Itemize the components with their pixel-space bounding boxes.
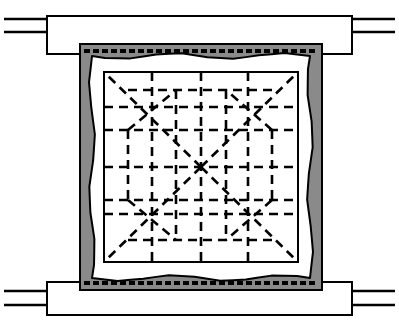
tick-row-bottom-tick bbox=[138, 281, 144, 285]
tick-row-top-tick bbox=[228, 49, 234, 53]
tick-row-top-tick bbox=[273, 49, 279, 53]
tick-row-bottom-tick bbox=[255, 281, 261, 285]
tick-row-bottom-tick bbox=[174, 281, 180, 285]
tick-row-bottom-tick bbox=[201, 281, 207, 285]
tick-row-bottom-tick bbox=[192, 281, 198, 285]
tick-row-top-tick bbox=[156, 49, 162, 53]
tick-row-top-tick bbox=[309, 49, 315, 53]
tick-row-top-tick bbox=[138, 49, 144, 53]
tick-row-top-tick bbox=[183, 49, 189, 53]
tick-row-bottom-tick bbox=[165, 281, 171, 285]
tick-row-bottom-tick bbox=[300, 281, 306, 285]
tick-row-bottom-tick bbox=[273, 281, 279, 285]
tick-row-bottom-tick bbox=[156, 281, 162, 285]
tick-row-top-tick bbox=[111, 49, 117, 53]
tick-row-top-tick bbox=[93, 49, 99, 53]
tick-row-top-tick bbox=[129, 49, 135, 53]
tick-row-bottom-tick bbox=[246, 281, 252, 285]
tick-row-top-tick bbox=[246, 49, 252, 53]
tick-row-bottom-tick bbox=[228, 281, 234, 285]
tick-row-top-tick bbox=[84, 49, 90, 53]
tick-row-bottom-tick bbox=[84, 281, 90, 285]
tick-row-top-tick bbox=[210, 49, 216, 53]
tick-row-bottom-tick bbox=[102, 281, 108, 285]
site-plan-figure bbox=[0, 0, 399, 325]
plan-drawing-canvas bbox=[0, 0, 399, 325]
tick-row-top-tick bbox=[102, 49, 108, 53]
tick-row-top-tick bbox=[201, 49, 207, 53]
tick-row-top-tick bbox=[264, 49, 270, 53]
tick-row-bottom-tick bbox=[291, 281, 297, 285]
tick-row-top-tick bbox=[300, 49, 306, 53]
tick-row-bottom-tick bbox=[264, 281, 270, 285]
tick-row-bottom-tick bbox=[210, 281, 216, 285]
tick-row-top-tick bbox=[174, 49, 180, 53]
tick-row-bottom-tick bbox=[147, 281, 153, 285]
tick-row-bottom-tick bbox=[309, 281, 315, 285]
tick-row-top-tick bbox=[255, 49, 261, 53]
tick-row-top-tick bbox=[120, 49, 126, 53]
tick-row-top-tick bbox=[165, 49, 171, 53]
tick-row-top-tick bbox=[291, 49, 297, 53]
tick-row-top-tick bbox=[219, 49, 225, 53]
tick-row-bottom-tick bbox=[129, 281, 135, 285]
tick-row-bottom-tick bbox=[237, 281, 243, 285]
tick-row-top-tick bbox=[237, 49, 243, 53]
tick-row-bottom-tick bbox=[282, 281, 288, 285]
tick-row-bottom-tick bbox=[93, 281, 99, 285]
tick-row-top-tick bbox=[192, 49, 198, 53]
tick-row-top-tick bbox=[147, 49, 153, 53]
tick-row-bottom-tick bbox=[183, 281, 189, 285]
